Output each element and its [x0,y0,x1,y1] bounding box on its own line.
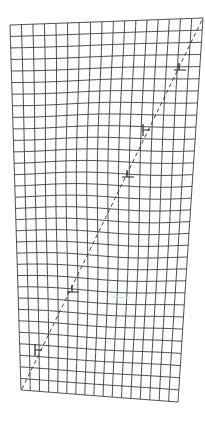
grid-row-line [18,287,185,293]
grid-row-line [12,91,198,95]
grid-row-line [18,275,186,281]
accent-mark [112,297,130,298]
grid-row-line [17,241,189,246]
grid-row-line [12,79,199,83]
grid-row-line [13,137,195,140]
grid-row-line [20,367,179,378]
grid-row-line [16,207,191,211]
grid-row-line [21,378,179,389]
grid-row-line [19,309,184,317]
grid-row-line [15,195,191,199]
grid-column-line [10,25,21,390]
grid-column-line [140,20,158,400]
grid-row-line [10,18,203,25]
grid-row-line [11,54,201,59]
grid-row-line [11,67,200,71]
grid-column-line [66,23,68,394]
grid-row-line [13,114,197,117]
grid-column-line [94,22,102,396]
grid-row-line [14,149,195,152]
grid-row-line [16,230,189,235]
grid-row-line [14,160,194,163]
grid-column-line [44,24,48,392]
grid-row-line [11,42,202,48]
grid-column-line [56,23,59,392]
lattice-diagram [0,0,205,422]
grid-row-line [16,218,190,223]
grid-column-line [150,19,170,400]
grid-row-line [19,321,183,329]
grid-column-line [85,22,91,395]
distorted-grid [10,18,203,402]
grid-column-line [76,23,79,395]
grid-row-line [17,264,186,270]
grid-row-line [20,344,182,354]
grid-row-line [19,332,182,341]
grid-row-line [13,126,196,129]
grid-row-line [12,102,197,105]
grid-column-line [159,19,180,401]
grid-row-line [20,355,180,365]
grid-row-line [18,298,184,305]
grid-row-line [17,253,188,258]
grid-row-line [14,172,192,175]
grid-row-line [10,30,202,36]
dislocation-markers [35,63,186,356]
grid-row-line [21,390,178,402]
grid-row-line [15,184,192,188]
